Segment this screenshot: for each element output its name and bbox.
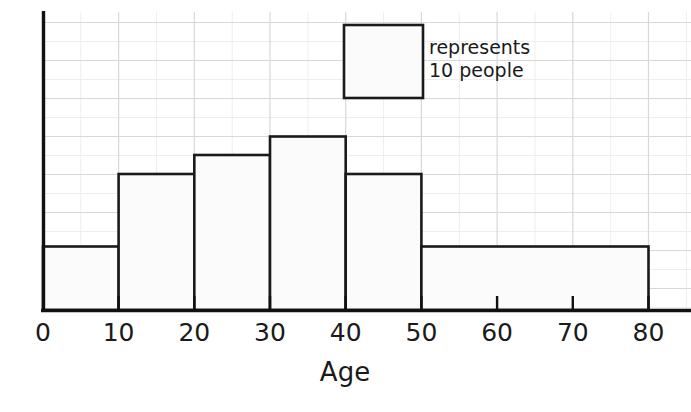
bar-40-50 [346, 174, 422, 310]
x-tick-label-30: 30 [254, 318, 286, 347]
x-tick-label-60: 60 [481, 318, 513, 347]
x-tick-label-70: 70 [557, 318, 589, 347]
x-axis-tick-labels: 0 10 20 30 40 50 60 70 80 [35, 318, 664, 347]
bar-0-10 [43, 247, 119, 311]
x-tick-label-40: 40 [330, 318, 362, 347]
legend-text-line2: 10 people [429, 59, 524, 81]
legend-text-line1: represents [429, 36, 530, 58]
x-tick-label-10: 10 [103, 318, 135, 347]
x-tick-label-20: 20 [178, 318, 210, 347]
histogram-plot-area: 0 10 20 30 40 50 60 70 80 Age represents… [0, 0, 691, 412]
histogram-figure: 0 10 20 30 40 50 60 70 80 Age represents… [0, 0, 691, 412]
legend-swatch-square [344, 25, 423, 98]
x-tick-label-0: 0 [35, 318, 51, 347]
x-tick-label-50: 50 [405, 318, 437, 347]
x-axis-title: Age [320, 357, 370, 387]
bar-10-20 [119, 174, 195, 310]
bar-50-80 [421, 247, 648, 311]
x-tick-label-80: 80 [633, 318, 665, 347]
bar-20-30 [194, 155, 270, 310]
bar-30-40 [270, 137, 346, 311]
